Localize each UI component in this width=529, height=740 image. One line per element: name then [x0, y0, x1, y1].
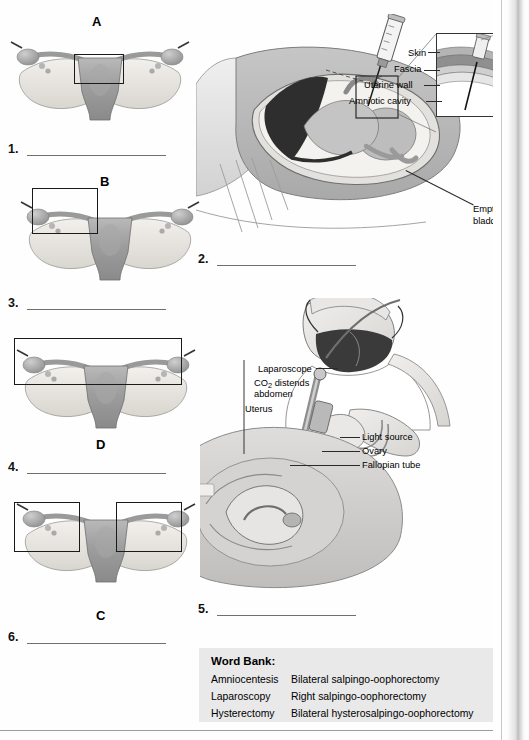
specimen-b-letter: B [100, 174, 109, 189]
amnio-label-skin: Skin [408, 48, 426, 59]
answer-blank-5[interactable]: 5. [198, 602, 358, 618]
specimen-d-selection-box [14, 338, 182, 385]
laparoscopy-label-ovary: Ovary [362, 446, 387, 457]
answer-blank-3-number: 3. [8, 296, 18, 310]
page-bottom-rule [0, 730, 497, 731]
worksheet-page: A 1. B 3. D [0, 0, 529, 740]
answer-blank-5-number: 5. [198, 602, 208, 616]
answer-blank-1[interactable]: 1. [8, 142, 168, 158]
answer-blank-3[interactable]: 3. [8, 296, 168, 312]
word-bank-term-right-salpingo-oophorectomy: Right salpingo-oophorectomy [291, 691, 426, 702]
word-bank-panel: Word Bank: Amniocentesis Laparoscopy Hys… [199, 648, 496, 722]
co2-text-post: distends [272, 378, 309, 388]
amnio-leader-uterine-wall [424, 85, 440, 86]
amnio-label-amniotic-cavity: Amniotic cavity [349, 96, 411, 107]
answer-blank-1-rule[interactable] [27, 155, 166, 156]
page-gutter-shadow [493, 0, 529, 740]
answer-blank-1-number: 1. [8, 142, 18, 156]
specimen-d-letter: D [96, 437, 105, 452]
laparoscopy-illustration [200, 298, 500, 590]
specimen-a-selection-box [74, 54, 124, 84]
page-edge-line [501, 0, 502, 740]
amnio-leader-fascia [424, 70, 440, 71]
laparoscopy-label-co2: CO2 distends abdomen [254, 378, 309, 400]
word-bank-title: Word Bank: [211, 655, 275, 667]
amniocentesis-inset [436, 33, 498, 117]
word-bank-term-bilateral-salpingo-oophorectomy: Bilateral salpingo-oophorectomy [291, 674, 439, 685]
laparoscopy-leader-ovary [322, 451, 360, 452]
specimen-c-letter: C [96, 608, 105, 623]
answer-blank-4[interactable]: 4. [8, 460, 168, 476]
specimen-b-selection-box [32, 188, 98, 234]
amnio-label-fascia: Fascia [394, 64, 421, 75]
specimen-c-selection-box-left [14, 502, 80, 552]
co2-text-pre: CO [254, 378, 268, 388]
laparoscopy-leader-fallopian-tube [290, 465, 360, 466]
answer-blank-3-rule[interactable] [27, 309, 166, 310]
amnio-leader-amniotic-cavity [426, 101, 442, 102]
answer-blank-4-rule[interactable] [27, 473, 166, 474]
laparoscopy-label-light-source: Light source [362, 432, 413, 443]
answer-blank-6-number: 6. [8, 630, 18, 644]
laparoscopy-label-uterus: Uterus [245, 404, 272, 415]
laparoscopy-label-fallopian-tube: Fallopian tube [362, 460, 420, 471]
laparoscopy-leader-laparoscope [316, 368, 338, 369]
word-bank-term-bilateral-hysterosalpingo-oophorectomy: Bilateral hysterosalpingo-oophorectomy [291, 708, 474, 719]
word-bank-term-laparoscopy: Laparoscopy [211, 691, 271, 702]
amnio-label-uterine-wall: Uterine wall [364, 80, 413, 91]
co2-line2: abdomen [254, 389, 293, 399]
answer-blank-2-number: 2. [198, 252, 208, 266]
answer-blank-2[interactable]: 2. [198, 252, 358, 268]
specimen-a-letter: A [92, 14, 101, 29]
word-bank-term-amniocentesis: Amniocentesis [211, 674, 279, 685]
word-bank-term-hysterectomy: Hysterectomy [211, 708, 275, 719]
answer-blank-6-rule[interactable] [27, 643, 166, 644]
answer-blank-4-number: 4. [8, 460, 18, 474]
specimen-c-selection-box-right [116, 502, 182, 552]
answer-blank-6[interactable]: 6. [8, 630, 168, 646]
answer-blank-2-rule[interactable] [217, 265, 356, 266]
amnio-leader-skin [428, 52, 440, 53]
answer-blank-5-rule[interactable] [217, 615, 356, 616]
laparoscopy-leader-light-source [340, 437, 360, 438]
co2-subscript: 2 [268, 381, 272, 390]
laparoscopy-label-laparoscope: Laparoscope [258, 364, 312, 375]
